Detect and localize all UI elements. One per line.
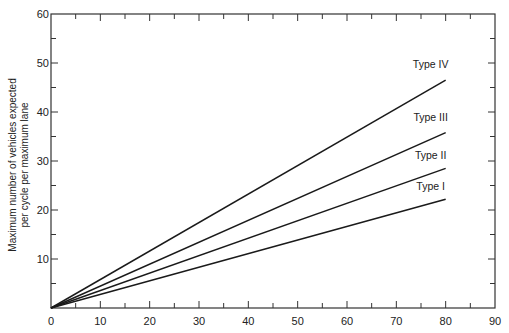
series-label: Type I <box>416 180 445 192</box>
x-tick-label: 40 <box>242 315 254 327</box>
x-tick-label: 90 <box>489 315 501 327</box>
series-label: Type III <box>413 111 447 123</box>
series-line <box>51 80 446 308</box>
y-axis-title-line1: Maximum number of vehicles expected <box>7 78 18 251</box>
y-tick-label: 60 <box>37 8 49 20</box>
series-label: Type II <box>415 149 447 161</box>
x-axis-tick-labels: 0102030405060708090 <box>48 315 501 327</box>
chart: 0102030405060708090 102030405060 Type IV… <box>0 0 509 333</box>
x-tick-label: 70 <box>390 315 402 327</box>
series-line <box>51 168 446 308</box>
series-line <box>51 199 446 308</box>
series-label: Type IV <box>413 58 449 70</box>
y-axis-title: Maximum number of vehicles expected per … <box>7 78 30 251</box>
y-tick-label: 40 <box>37 106 49 118</box>
y-tick-label: 50 <box>37 57 49 69</box>
series-line <box>51 133 446 308</box>
x-tick-label: 0 <box>48 315 54 327</box>
series-labels: Type IVType IIIType IIType I <box>413 58 449 192</box>
y-tick-label: 30 <box>37 155 49 167</box>
x-tick-label: 50 <box>292 315 304 327</box>
x-tick-label: 20 <box>144 315 156 327</box>
x-tick-label: 60 <box>341 315 353 327</box>
x-tick-label: 30 <box>193 315 205 327</box>
y-tick-label: 10 <box>37 253 49 265</box>
x-tick-label: 10 <box>94 315 106 327</box>
x-tick-label: 80 <box>440 315 452 327</box>
data-lines <box>51 80 446 308</box>
y-tick-label: 20 <box>37 204 49 216</box>
y-axis-tick-labels: 102030405060 <box>37 8 49 265</box>
y-axis-title-line2: per cycle per maximum lane <box>19 102 30 227</box>
